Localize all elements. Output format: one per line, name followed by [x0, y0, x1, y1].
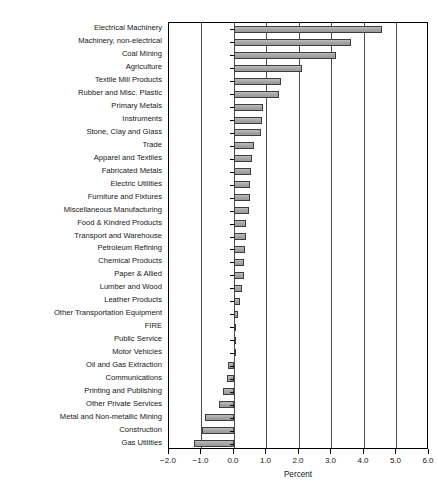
category-label: Transport and Warehouse: [74, 232, 162, 240]
category-label: Construction: [119, 426, 162, 434]
category-label: Gas Utilities: [121, 439, 162, 447]
bar-chart: Electrical MachineryMachinery, non-elect…: [0, 0, 438, 493]
category-label: Electric Utilities: [111, 180, 162, 188]
category-tick: [230, 42, 234, 43]
category-tick: [230, 392, 234, 393]
category-label: Instruments: [122, 115, 162, 123]
bar: [234, 324, 236, 331]
bar: [234, 220, 246, 227]
category-tick: [230, 55, 234, 56]
category-label: Leather Products: [104, 296, 162, 304]
category-tick: [230, 288, 234, 289]
category-tick: [230, 301, 234, 302]
bar: [234, 349, 236, 356]
bar: [234, 194, 250, 201]
bar: [234, 181, 250, 188]
bar: [234, 168, 251, 175]
bar: [234, 26, 382, 33]
category-label: Public Service: [114, 335, 162, 343]
bar: [234, 285, 242, 292]
category-tick: [230, 172, 234, 173]
category-label: Apparel and Textiles: [94, 154, 162, 162]
category-tick: [230, 444, 234, 445]
category-label: Agriculture: [126, 63, 162, 71]
bar: [234, 142, 254, 149]
category-label: Petroleum Refining: [97, 244, 162, 252]
x-axis-tick: [330, 449, 331, 454]
category-tick: [230, 431, 234, 432]
category-tick: [230, 211, 234, 212]
bar: [234, 117, 262, 124]
category-tick: [230, 68, 234, 69]
bar: [234, 78, 281, 85]
gridline: [201, 23, 202, 448]
bar: [234, 272, 244, 279]
bar: [234, 104, 263, 111]
category-label: Textile Mill Products: [95, 76, 162, 84]
category-tick: [230, 340, 234, 341]
x-axis-title: Percent: [168, 470, 428, 479]
category-label: Printing and Publishing: [84, 387, 162, 395]
bar: [234, 155, 252, 162]
bar: [234, 52, 336, 59]
plot-area: [168, 22, 428, 449]
category-tick: [230, 120, 234, 121]
gridline: [396, 23, 397, 448]
gridline: [364, 23, 365, 448]
category-tick: [230, 159, 234, 160]
category-label: FIRE: [145, 322, 162, 330]
category-label: Oil and Gas Extraction: [86, 361, 162, 369]
x-axis-tick: [395, 449, 396, 454]
bar: [234, 246, 245, 253]
bar: [234, 311, 238, 318]
category-tick: [230, 94, 234, 95]
category-tick: [230, 353, 234, 354]
x-axis-tick: [265, 449, 266, 454]
category-tick: [230, 29, 234, 30]
category-tick: [230, 146, 234, 147]
x-axis-tick-label: 6.0: [408, 456, 438, 465]
category-label: Coal Mining: [122, 50, 162, 58]
category-tick: [230, 418, 234, 419]
category-label: Primary Metals: [111, 102, 162, 110]
category-label: Furniture and Fixtures: [88, 193, 162, 201]
category-label: Stone, Clay and Glass: [86, 128, 162, 136]
category-tick: [230, 379, 234, 380]
bar: [234, 259, 244, 266]
bar: [234, 91, 279, 98]
category-label: Rubber and Misc. Plastic: [78, 89, 162, 97]
bar: [234, 233, 246, 240]
x-axis-tick: [428, 449, 429, 454]
category-label: Food & Kindred Products: [77, 219, 162, 227]
category-label: Communications: [105, 374, 162, 382]
category-tick: [230, 275, 234, 276]
category-label: Electrical Machinery: [94, 24, 162, 32]
x-axis-tick: [363, 449, 364, 454]
category-label: Chemical Products: [98, 257, 162, 265]
category-tick: [230, 81, 234, 82]
bar: [194, 440, 234, 447]
category-label: Miscellaneous Manufacturing: [64, 206, 162, 214]
x-axis-tick: [298, 449, 299, 454]
category-label: Paper & Allied: [114, 270, 162, 278]
bar: [234, 298, 240, 305]
category-tick: [230, 198, 234, 199]
chart-title: [0, 0, 438, 4]
category-tick: [230, 405, 234, 406]
gridline: [331, 23, 332, 448]
bar: [234, 65, 302, 72]
category-label: Fabricated Metals: [102, 167, 162, 175]
category-label: Machinery, non-electrical: [78, 37, 162, 45]
gridline: [299, 23, 300, 448]
bar: [234, 39, 351, 46]
category-label: Metal and Non-metallic Mining: [60, 413, 162, 421]
category-tick: [230, 185, 234, 186]
category-label: Other Transportation Equipment: [54, 309, 162, 317]
bar: [234, 129, 261, 136]
category-label: Motor Vehicles: [112, 348, 162, 356]
category-tick: [230, 314, 234, 315]
category-tick: [230, 249, 234, 250]
category-tick: [230, 107, 234, 108]
x-axis-tick: [233, 449, 234, 454]
category-tick: [230, 224, 234, 225]
